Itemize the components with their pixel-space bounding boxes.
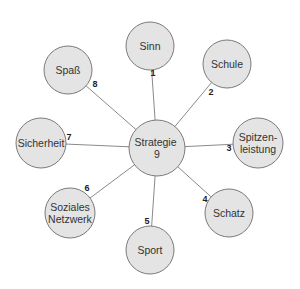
node-label-line: Schule <box>211 58 243 70</box>
node-label-schatz: Schatz <box>213 207 245 219</box>
node-label-sport: Sport <box>137 244 162 256</box>
node-number-schule: 2 <box>208 87 213 97</box>
node-label-line: leistung <box>240 143 276 155</box>
node-spass: Spaß8 <box>44 46 98 94</box>
node-label-spitzenleistung: Spitzen-leistung <box>239 131 278 155</box>
node-spitzenleistung: Spitzen-leistung3 <box>226 118 283 168</box>
node-label-line: Sicherheit <box>18 137 65 149</box>
node-label-line: Schatz <box>213 207 245 219</box>
center-node-label-line-1: Strategie <box>135 136 177 148</box>
strategy-diagram: Sinn1Schule2Spitzen-leistung3Schatz4Spor… <box>0 0 300 289</box>
node-label-sinn: Sinn <box>139 40 160 52</box>
node-sicherheit: Sicherheit7 <box>16 118 72 168</box>
node-label-soziales-netzwerk: SozialesNetzwerk <box>48 201 93 225</box>
node-label-spass: Spaß <box>55 64 80 76</box>
center-node: Strategie 9 <box>129 120 185 176</box>
edge-sport <box>152 176 155 226</box>
node-label-line: Sinn <box>139 40 160 52</box>
node-label-schule: Schule <box>211 58 243 70</box>
node-number-schatz: 4 <box>202 194 207 204</box>
edge-spass <box>86 86 136 130</box>
node-number-spitzenleistung: 3 <box>226 143 231 153</box>
node-label-line: Soziales <box>50 201 90 213</box>
node-number-sinn: 1 <box>150 68 155 78</box>
node-label-sicherheit: Sicherheit <box>18 137 65 149</box>
node-sport: Sport5 <box>126 216 174 274</box>
edge-sicherheit <box>66 144 129 147</box>
node-schule: Schule2 <box>203 40 251 97</box>
diagram-canvas: Sinn1Schule2Spitzen-leistung3Schatz4Spor… <box>0 0 300 289</box>
node-soziales-netzwerk: SozialesNetzwerk6 <box>45 183 95 238</box>
node-label-line: Netzwerk <box>48 213 93 225</box>
node-number-spass: 8 <box>92 79 97 89</box>
node-number-sicherheit: 7 <box>66 132 71 142</box>
node-sinn: Sinn1 <box>126 22 174 78</box>
edge-schule <box>175 82 212 126</box>
node-label-line: Sport <box>137 244 162 256</box>
center-node-label-line-2: 9 <box>154 148 160 160</box>
node-number-sport: 5 <box>144 216 149 226</box>
edge-soziales-netzwerk <box>90 165 135 198</box>
node-label-line: Spitzen- <box>239 131 278 143</box>
node-number-soziales-netzwerk: 6 <box>84 183 89 193</box>
edge-schatz <box>178 167 211 197</box>
node-label-line: Spaß <box>55 64 80 76</box>
